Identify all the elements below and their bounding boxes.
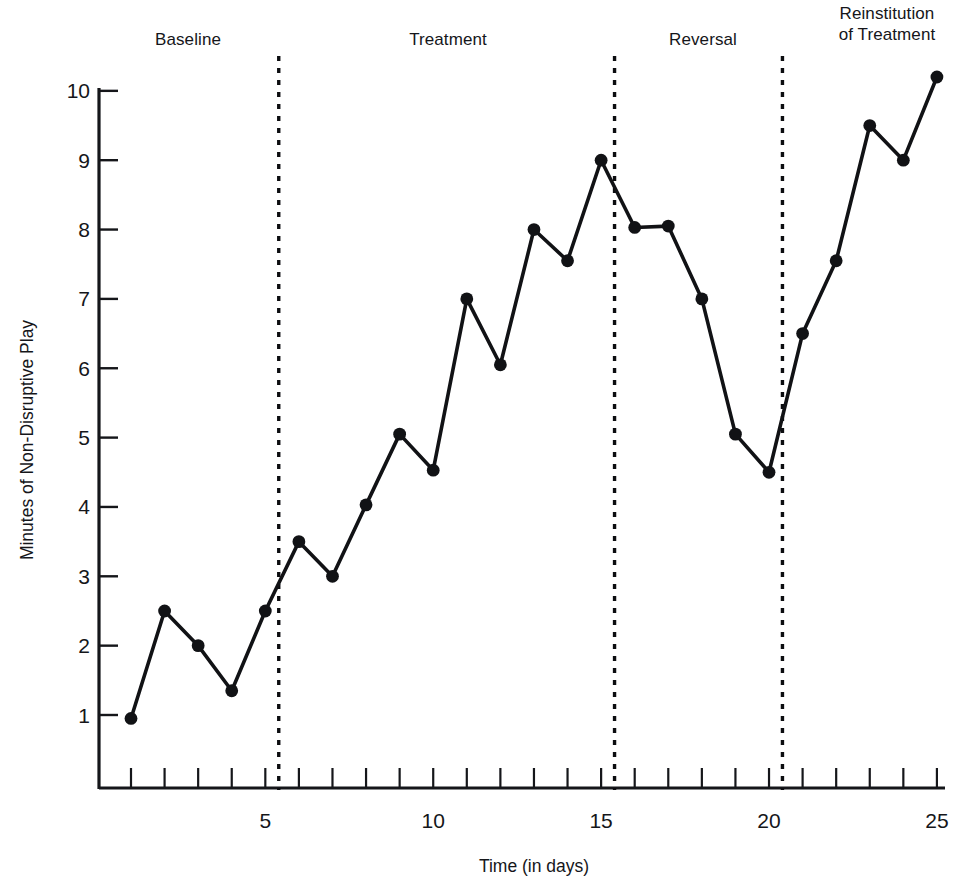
data-point: [360, 498, 373, 511]
y-tick-label: 9: [78, 149, 90, 172]
y-tick-label: 5: [78, 426, 90, 449]
data-point: [125, 712, 138, 725]
data-point: [225, 684, 238, 697]
y-tick-label: 1: [78, 704, 90, 727]
x-tick-label: 5: [259, 809, 271, 832]
y-tick-label: 7: [78, 287, 90, 310]
phase-divider-lines: [279, 56, 783, 790]
data-point: [259, 605, 272, 618]
data-point: [763, 466, 776, 479]
data-point: [897, 154, 910, 167]
y-axis-title: Minutes of Non-Disruptive Play: [17, 320, 37, 560]
x-axis-title: Time (in days): [479, 856, 589, 876]
y-axis-tick-labels: 12345678910: [67, 79, 91, 726]
plot-area: Minutes of Non-Disruptive Play Time (in …: [0, 0, 968, 895]
data-point: [863, 119, 876, 132]
single-subject-line-chart: Baseline Treatment Reversal Reinstitutio…: [0, 0, 968, 895]
x-tick-label: 15: [589, 809, 612, 832]
data-point: [528, 223, 541, 236]
x-tick-label: 25: [925, 809, 948, 832]
data-series-line: [131, 77, 937, 718]
data-point: [695, 293, 708, 306]
y-tick-label: 4: [78, 495, 90, 518]
data-point: [393, 428, 406, 441]
data-point: [628, 221, 641, 234]
data-point: [931, 71, 944, 84]
x-tick-label: 20: [757, 809, 780, 832]
y-tick-label: 3: [78, 565, 90, 588]
data-series-markers: [125, 71, 944, 725]
y-axis-tick-marks: [99, 91, 118, 715]
data-point: [460, 293, 473, 306]
x-tick-label: 10: [422, 809, 445, 832]
data-point: [830, 254, 843, 267]
data-point: [326, 570, 339, 583]
x-axis-tick-labels: 510152025: [259, 809, 948, 832]
data-point: [427, 464, 440, 477]
y-tick-label: 8: [78, 218, 90, 241]
data-point: [729, 428, 742, 441]
data-point: [595, 154, 608, 167]
data-point: [561, 254, 574, 267]
data-point: [494, 358, 507, 371]
y-tick-label: 10: [67, 79, 90, 102]
y-tick-label: 6: [78, 357, 90, 380]
data-point: [662, 220, 675, 233]
data-point: [293, 535, 306, 548]
data-point: [158, 605, 171, 618]
data-point: [192, 639, 205, 652]
data-point: [796, 327, 809, 340]
y-tick-label: 2: [78, 634, 90, 657]
x-axis-tick-marks: [131, 768, 937, 788]
